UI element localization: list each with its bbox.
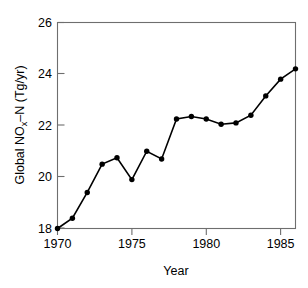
data-point bbox=[233, 120, 238, 125]
chart-figure: 18 20 22 24 26 1970 1975 1980 1985 Year … bbox=[0, 0, 308, 288]
data-point bbox=[174, 116, 179, 121]
data-point bbox=[85, 190, 90, 195]
data-point bbox=[204, 116, 209, 121]
data-point bbox=[99, 161, 104, 166]
x-axis-title: Year bbox=[163, 264, 188, 278]
x-tick-label: 1970 bbox=[44, 237, 72, 251]
data-point bbox=[55, 226, 60, 231]
data-point bbox=[278, 76, 283, 81]
x-tick-label: 1980 bbox=[192, 237, 220, 251]
data-point bbox=[189, 114, 194, 119]
y-tick-label: 18 bbox=[38, 222, 52, 236]
data-point bbox=[218, 122, 223, 127]
y-axis-title-prefix: Global NO bbox=[13, 126, 27, 185]
y-tick-label: 22 bbox=[38, 119, 52, 133]
data-point bbox=[293, 66, 298, 71]
data-point bbox=[70, 216, 75, 221]
y-axis-title-suffix: –N (Tg/yr) bbox=[13, 65, 27, 121]
data-point bbox=[129, 177, 134, 182]
x-tick-label: 1975 bbox=[118, 237, 146, 251]
data-point bbox=[263, 93, 268, 98]
data-point bbox=[144, 149, 149, 154]
data-point bbox=[159, 156, 164, 161]
y-tick-label: 26 bbox=[38, 16, 52, 30]
data-point bbox=[248, 113, 253, 118]
y-tick-label: 24 bbox=[38, 67, 52, 81]
y-tick-label: 20 bbox=[38, 170, 52, 184]
x-tick-label: 1985 bbox=[267, 237, 295, 251]
data-point bbox=[114, 155, 119, 160]
